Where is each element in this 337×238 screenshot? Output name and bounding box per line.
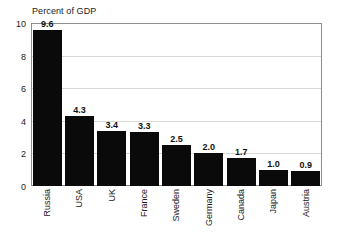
bar-value-label: 3.4	[106, 120, 119, 130]
bar-group[interactable]: 0.9	[291, 23, 320, 186]
x-tick-label: Russia	[43, 189, 52, 217]
bar[interactable]	[194, 153, 223, 186]
bar[interactable]	[259, 170, 288, 186]
bar-value-label: 1.0	[267, 159, 280, 169]
bar-group[interactable]: 4.3	[65, 23, 94, 186]
bar[interactable]	[227, 158, 256, 186]
bar-group[interactable]: 2.5	[162, 23, 191, 186]
bar[interactable]	[130, 132, 159, 186]
x-tick-label: USA	[75, 189, 84, 208]
x-category: USA	[65, 188, 94, 238]
bar-group[interactable]: 3.4	[97, 23, 126, 186]
x-tick-label: Japan	[269, 189, 278, 214]
x-tick-label: Canada	[237, 189, 246, 221]
x-tick-label: Sweden	[172, 189, 181, 222]
y-tick-label: 6	[21, 85, 26, 94]
bar-value-label: 4.3	[73, 105, 86, 115]
bar-chart: Percent of GDP 0246810 9.64.33.43.32.52.…	[0, 0, 337, 238]
bar-group[interactable]: 1.7	[227, 23, 256, 186]
bar-value-label: 3.3	[138, 121, 151, 131]
x-category: Canada	[227, 188, 256, 238]
y-axis: 0246810	[0, 23, 31, 187]
bar-group[interactable]: 9.6	[33, 23, 62, 186]
x-category: Japan	[259, 188, 288, 238]
chart-title: Percent of GDP	[32, 6, 96, 17]
bar[interactable]	[33, 30, 62, 186]
bar-value-label: 2.5	[170, 134, 183, 144]
bar[interactable]	[162, 145, 191, 186]
x-category: Russia	[33, 188, 62, 238]
bar-group[interactable]: 2.0	[194, 23, 223, 186]
y-tick-label: 4	[21, 117, 26, 126]
y-tick-label: 8	[21, 52, 26, 61]
x-axis: RussiaUSAUKFranceSwedenGermanyCanadaJapa…	[31, 188, 322, 238]
y-tick-label: 0	[21, 183, 26, 192]
x-category: France	[130, 188, 159, 238]
y-tick-label: 2	[21, 150, 26, 159]
x-category: Sweden	[162, 188, 191, 238]
bar-group[interactable]: 3.3	[130, 23, 159, 186]
x-tick-label: France	[140, 189, 149, 217]
x-tick-label: Germany	[204, 189, 213, 226]
bar-value-label: 0.9	[300, 160, 313, 170]
x-tick-label: Austria	[301, 189, 310, 217]
bar-value-label: 9.6	[41, 19, 54, 29]
bar[interactable]	[97, 131, 126, 186]
bar[interactable]	[291, 171, 320, 186]
x-tick-label: UK	[107, 189, 116, 202]
y-tick-label: 10	[16, 20, 26, 29]
x-category: UK	[97, 188, 126, 238]
bar-value-label: 1.7	[235, 147, 248, 157]
x-category: Austria	[291, 188, 320, 238]
bars-layer: 9.64.33.43.32.52.01.71.00.9	[31, 23, 322, 186]
bar-group[interactable]: 1.0	[259, 23, 288, 186]
bar[interactable]	[65, 116, 94, 186]
x-category: Germany	[194, 188, 223, 238]
bar-value-label: 2.0	[203, 142, 216, 152]
